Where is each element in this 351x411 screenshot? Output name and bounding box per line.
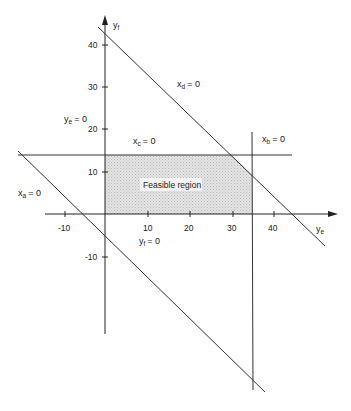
constraint-label-xc: xc= 0 <box>133 136 156 147</box>
x-tick-label: -10 <box>58 223 71 233</box>
x-tick-label: 40 <box>268 223 278 233</box>
constraint-label-xb: xb= 0 <box>262 134 285 145</box>
x-tick-label: 30 <box>227 223 237 233</box>
y-tick-label: -10 <box>85 252 98 262</box>
y-tick-label: 10 <box>88 167 98 177</box>
y-axis-label: yf <box>113 20 120 31</box>
x-axis-label: ye <box>316 224 325 235</box>
feasible-region-diagram: -10 10 20 30 40 40 30 20 10 -10 yf ye xd… <box>0 0 351 411</box>
x-tick-label: 10 <box>143 223 153 233</box>
x-tick-label: 20 <box>184 223 194 233</box>
region-label: Feasible region <box>143 180 201 190</box>
constraint-label-xa: xa= 0 <box>18 188 41 199</box>
y-tick-label: 30 <box>88 82 98 92</box>
constraint-label-xd: xd= 0 <box>177 79 200 90</box>
constraint-label-yf: yf= 0 <box>139 236 160 247</box>
x-axis-arrow-icon <box>328 211 338 217</box>
y-tick-label: 20 <box>88 124 98 134</box>
constraint-label-ye: ye= 0 <box>64 114 87 125</box>
y-tick-label: 40 <box>88 40 98 50</box>
y-axis-arrow-icon <box>102 15 108 25</box>
constraint-line-xb <box>252 132 253 390</box>
